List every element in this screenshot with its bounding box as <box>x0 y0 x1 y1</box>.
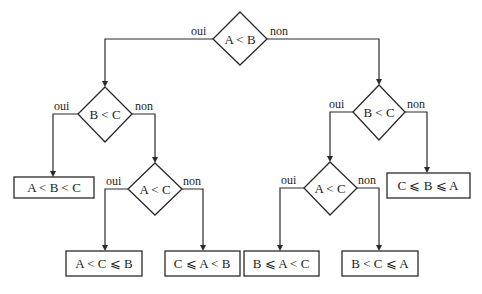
connectors <box>50 39 430 251</box>
connector-d5-yes <box>280 188 304 247</box>
branch-label-yes: oui <box>106 174 122 188</box>
arrow-head <box>50 171 56 177</box>
branch-label-yes: oui <box>54 99 70 113</box>
arrow-head <box>376 245 382 251</box>
decision-node: B < C <box>353 85 405 140</box>
arrow-head <box>200 245 206 251</box>
decision-node: A < C <box>128 163 182 215</box>
connector-d2-no <box>132 114 155 159</box>
connector-d1-yes <box>105 39 213 83</box>
decision-condition: A < C <box>139 182 170 197</box>
connector-d5-no <box>357 188 379 247</box>
decision-node: B < C <box>78 87 132 142</box>
result-text: A < C ⩽ B <box>75 256 133 271</box>
connector-d4-yes <box>105 189 128 247</box>
decision-condition: B < C <box>363 105 394 120</box>
branch-label-yes: oui <box>281 173 297 187</box>
connector-d3-yes <box>330 112 353 158</box>
result-node: C ⩽ B ⩽ A <box>387 173 470 198</box>
result-text: A < B < C <box>27 180 81 195</box>
decision-condition: A < B <box>224 32 256 47</box>
branch-label-no: non <box>407 97 425 111</box>
result-node: B < C ⩽ A <box>342 251 418 276</box>
branch-label-yes: oui <box>329 97 345 111</box>
connector-d4-no <box>182 189 203 247</box>
result-node: A < B < C <box>14 177 94 198</box>
branch-label-no: non <box>358 173 376 187</box>
branch-label-no: non <box>270 24 288 38</box>
arrow-head <box>277 245 283 251</box>
decision-node: A < C <box>304 162 357 215</box>
result-text: C ⩽ B ⩽ A <box>397 178 459 193</box>
result-node: C ⩽ A < B <box>165 251 240 276</box>
decision-condition: A < C <box>314 181 345 196</box>
result-text: B < C ⩽ A <box>351 256 409 271</box>
connector-d2-yes <box>53 114 78 173</box>
result-node: A < C ⩽ B <box>66 251 142 276</box>
decision-condition: B < C <box>89 107 120 122</box>
result-text: C ⩽ A < B <box>174 256 231 271</box>
branch-label-no: non <box>183 174 201 188</box>
connector-d1-no <box>267 39 379 81</box>
branch-label-no: non <box>135 99 153 113</box>
decision-tree-diagram: oui non oui non oui non oui non oui non … <box>0 0 482 294</box>
arrow-head <box>102 245 108 251</box>
connector-d3-no <box>405 112 427 169</box>
arrow-head <box>424 167 430 173</box>
result-node: B ⩽ A < C <box>244 251 319 276</box>
decision-node: A < B <box>213 12 267 65</box>
result-text: B ⩽ A < C <box>253 256 310 271</box>
branch-label-yes: oui <box>191 24 207 38</box>
